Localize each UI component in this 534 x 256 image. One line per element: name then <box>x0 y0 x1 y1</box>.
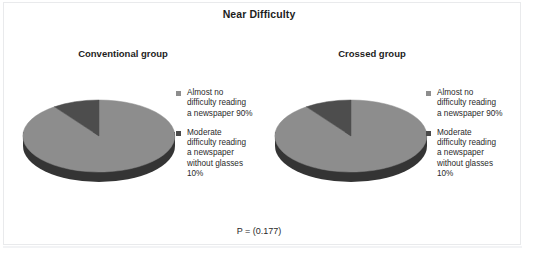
pie-chart-crossed-svg <box>270 80 432 192</box>
group-label-conventional: Conventional group <box>33 48 213 59</box>
legend-item-label: Almost no difficulty reading a newspaper… <box>187 88 268 119</box>
legend-item: Almost no difficulty reading a newspaper… <box>176 88 268 119</box>
panel-crossed-group: Crossed group Almost no <box>262 40 524 220</box>
legend-item-label: Almost no difficulty reading a newspaper… <box>437 88 518 119</box>
legend-item: Moderate difficulty reading a newspaper … <box>176 128 268 179</box>
legend-crossed: Almost no difficulty reading a newspaper… <box>426 88 518 188</box>
panel-conventional-group: Conventional group <box>8 40 270 220</box>
legend-swatch-icon <box>426 91 431 96</box>
legend-item: Moderate difficulty reading a newspaper … <box>426 128 518 179</box>
legend-swatch-icon <box>176 91 181 96</box>
pie-chart-conventional <box>18 80 180 192</box>
pie-chart-crossed <box>270 80 432 192</box>
page-title: Near Difficulty <box>0 8 518 20</box>
legend-swatch-icon <box>426 131 431 136</box>
legend-swatch-icon <box>176 131 181 136</box>
legend-item-label: Moderate difficulty reading a newspaper … <box>437 128 518 179</box>
pie-chart-conventional-svg <box>18 80 180 192</box>
legend-item-label: Moderate difficulty reading a newspaper … <box>187 128 268 179</box>
figure-frame-shadow <box>3 246 522 248</box>
p-value-annotation: P = (0.177) <box>0 226 518 236</box>
group-label-crossed: Crossed group <box>282 48 462 59</box>
legend-conventional: Almost no difficulty reading a newspaper… <box>176 88 268 188</box>
figure-near-difficulty: Near Difficulty Conventional group <box>0 0 534 256</box>
legend-item: Almost no difficulty reading a newspaper… <box>426 88 518 119</box>
